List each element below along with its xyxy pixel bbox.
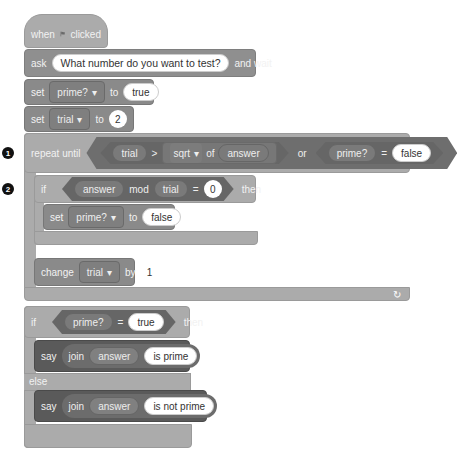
set-label: set xyxy=(31,87,44,98)
greater-than-condition[interactable]: trial > sqrt▾ofanswer xyxy=(100,142,288,164)
or-condition[interactable]: trial > sqrt▾ofanswer or prime? = false xyxy=(86,137,457,169)
else-bar: else xyxy=(24,373,191,391)
set-trial-block[interactable]: set trial▾ to 2 xyxy=(24,106,134,132)
variable-dropdown-trial[interactable]: trial▾ xyxy=(49,108,90,130)
sqrt-dropdown[interactable]: sqrt▾ xyxy=(170,143,202,163)
set-label: set xyxy=(50,212,63,223)
value-input-2[interactable]: 2 xyxy=(109,110,127,128)
when-label: when xyxy=(31,29,55,40)
when-flag-clicked-block[interactable]: when clicked xyxy=(24,14,108,48)
variable-name: trial xyxy=(57,114,73,125)
if-label: if xyxy=(41,184,46,195)
ask-label: ask xyxy=(31,58,47,69)
if-else-block[interactable]: if prime? = true then xyxy=(24,306,190,338)
value-input-true[interactable]: true xyxy=(123,83,158,101)
function-name: sqrt xyxy=(173,148,190,159)
value-input-false[interactable]: false xyxy=(392,144,431,162)
if-else-bottom xyxy=(24,424,192,448)
value-input-false[interactable]: false xyxy=(142,208,181,226)
if-label: if xyxy=(31,317,36,328)
chevron-down-icon: ▾ xyxy=(194,148,199,159)
loop-arrow-icon: ↻ xyxy=(393,289,401,300)
change-trial-block[interactable]: change trial▾ by 1 xyxy=(34,258,135,286)
say-is-not-prime-block[interactable]: say join answer is not prime xyxy=(34,390,207,422)
set-prime-block[interactable]: set prime?▾ to true xyxy=(24,79,154,105)
equals-operator: = xyxy=(118,317,124,328)
chevron-down-icon: ▾ xyxy=(77,114,82,125)
of-label: of xyxy=(206,148,214,159)
repeat-until-bottom: ↻ xyxy=(24,287,410,301)
to-label: to xyxy=(129,212,137,223)
clicked-label: clicked xyxy=(70,29,101,40)
trial-reporter[interactable]: trial xyxy=(112,144,146,162)
prime-reporter[interactable]: prime? xyxy=(64,313,113,331)
variable-dropdown-trial[interactable]: trial▾ xyxy=(79,261,120,283)
answer-reporter[interactable]: answer xyxy=(218,144,268,162)
join-reporter[interactable]: join answer is not prime xyxy=(62,394,218,418)
math-function-reporter[interactable]: sqrt▾ofanswer xyxy=(162,142,276,164)
variable-dropdown-prime[interactable]: prime?▾ xyxy=(68,206,124,228)
variable-dropdown-prime[interactable]: prime?▾ xyxy=(49,81,105,103)
set-label: set xyxy=(31,114,44,125)
value-input-0[interactable]: 0 xyxy=(204,180,222,198)
text-input-is-prime[interactable]: is prime xyxy=(144,347,197,365)
and-wait-label: and wait xyxy=(234,58,271,69)
green-flag-icon xyxy=(60,27,66,41)
mod-label: mod xyxy=(129,184,148,195)
change-label: change xyxy=(41,267,74,278)
to-label: to xyxy=(95,114,103,125)
greater-than-operator: > xyxy=(152,148,158,159)
equals-condition[interactable]: prime? = true xyxy=(52,310,176,334)
say-is-prime-block[interactable]: say join answer is prime xyxy=(34,340,190,372)
join-label: join xyxy=(69,351,85,362)
join-label: join xyxy=(69,401,85,412)
join-reporter[interactable]: join answer is prime xyxy=(62,344,201,368)
then-label: then xyxy=(242,184,261,195)
equals-operator: = xyxy=(381,148,387,159)
chevron-down-icon: ▾ xyxy=(111,212,116,223)
chevron-down-icon: ▾ xyxy=(107,267,112,278)
to-label: to xyxy=(110,87,118,98)
mod-equals-condition[interactable]: answer mod trial = 0 xyxy=(62,177,234,201)
chevron-down-icon: ▾ xyxy=(92,87,97,98)
text-input-is-not-prime[interactable]: is not prime xyxy=(144,397,214,415)
annotation-marker-1: 1 xyxy=(2,147,14,159)
set-prime-false-block[interactable]: set prime?▾ to false xyxy=(43,204,175,230)
answer-reporter[interactable]: answer xyxy=(74,180,124,198)
prime-reporter[interactable]: prime? xyxy=(328,144,377,162)
or-label: or xyxy=(298,148,307,159)
equals-condition[interactable]: prime? = false xyxy=(316,142,444,164)
answer-reporter[interactable]: answer xyxy=(89,347,139,365)
by-label: by xyxy=(125,267,136,278)
then-label: then xyxy=(184,317,203,328)
variable-name: prime? xyxy=(57,87,88,98)
say-label: say xyxy=(41,351,57,362)
else-label: else xyxy=(29,376,47,387)
if-then-block[interactable]: if answer mod trial = 0 then xyxy=(34,175,256,203)
value-input-true[interactable]: true xyxy=(128,313,163,331)
variable-name: prime? xyxy=(76,212,107,223)
variable-name: trial xyxy=(87,267,103,278)
say-label: say xyxy=(41,401,57,412)
repeat-until-label: repeat until xyxy=(31,148,80,159)
annotation-marker-2: 2 xyxy=(2,183,14,195)
value-input-1[interactable]: 1 xyxy=(141,263,159,281)
repeat-until-block[interactable]: repeat until trial > sqrt▾ofanswer or pr… xyxy=(24,133,410,173)
question-input[interactable]: What number do you want to test? xyxy=(52,54,230,72)
answer-reporter[interactable]: answer xyxy=(89,397,139,415)
equals-operator: = xyxy=(193,184,199,195)
if-mod-bottom xyxy=(34,231,258,245)
ask-and-wait-block[interactable]: ask What number do you want to test? and… xyxy=(24,49,256,77)
trial-reporter[interactable]: trial xyxy=(154,180,188,198)
